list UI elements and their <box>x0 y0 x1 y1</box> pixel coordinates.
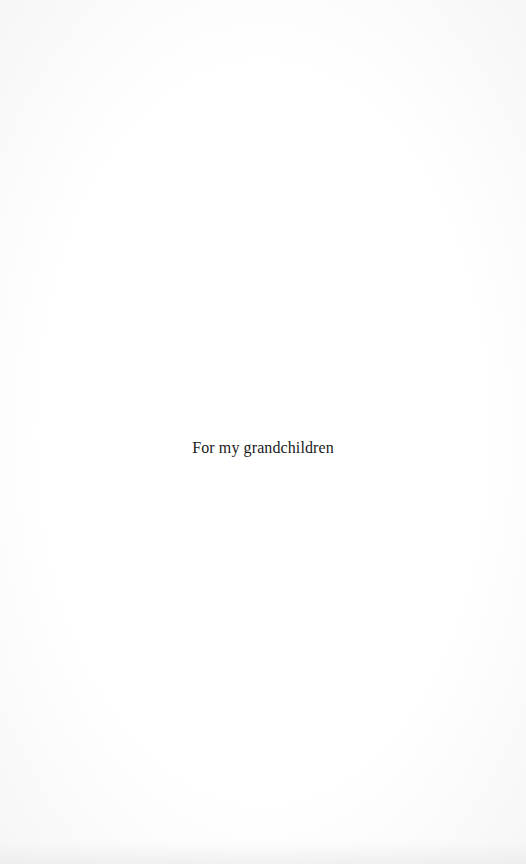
book-page: For my grandchildren <box>0 0 526 864</box>
dedication-text: For my grandchildren <box>0 438 526 458</box>
